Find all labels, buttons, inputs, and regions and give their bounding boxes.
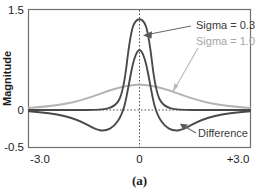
annotation-sigma-03: Sigma = 0.3 (196, 19, 255, 31)
x-tick-mid: 0 (136, 153, 142, 165)
y-axis-title: Magnitude (1, 51, 13, 106)
dog-filter-chart: Sigma = 0.3 Sigma = 1.0 Difference 1.5 0… (0, 0, 260, 192)
figure-caption: (a) (132, 173, 147, 188)
annotation-sigma-1: Sigma = 1.0 (196, 35, 255, 47)
y-tick-mid: 0 (18, 104, 24, 116)
annotation-difference: Difference (198, 127, 248, 139)
curve-difference (29, 50, 250, 131)
sigma-03-leader-line (145, 26, 191, 35)
x-tick-right: +3.0 (227, 153, 250, 165)
y-tick-bottom: -0.5 (4, 141, 24, 153)
figure-root: Sigma = 0.3 Sigma = 1.0 Difference 1.5 0… (0, 0, 260, 192)
sigma-1-leader-line (174, 48, 198, 90)
x-tick-left: -3.0 (30, 153, 50, 165)
y-tick-top: 1.5 (8, 4, 24, 16)
curve-sigma-03 (29, 19, 250, 110)
